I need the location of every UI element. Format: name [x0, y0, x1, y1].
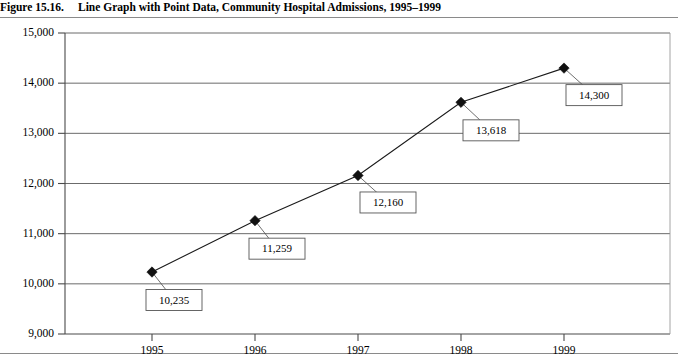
xtick-label-1995: 1995 — [141, 344, 164, 355]
callout-label-1998: 13,618 — [476, 124, 507, 136]
figure-caption: Figure 15.16.Line Graph with Point Data,… — [0, 0, 679, 16]
ytick-label-10000: 10,000 — [22, 277, 54, 290]
xtick-label-1998: 1998 — [450, 344, 473, 355]
xtick-label-1999: 1999 — [553, 344, 576, 355]
xtick-label-1996: 1996 — [244, 344, 267, 355]
callout-label-1995: 10,235 — [159, 294, 190, 306]
line-chart: 9,00010,00011,00012,00013,00014,00015,00… — [0, 17, 679, 355]
ytick-label-15000: 15,000 — [22, 26, 54, 39]
chart-canvas: 9,00010,00011,00012,00013,00014,00015,00… — [0, 17, 679, 355]
figure-title: Line Graph with Point Data, Community Ho… — [78, 0, 441, 15]
ytick-label-14000: 14,000 — [22, 76, 54, 89]
ytick-label-9000: 9,000 — [28, 327, 54, 340]
data-point-1995[interactable] — [147, 267, 157, 277]
xtick-label-1997: 1997 — [347, 344, 370, 355]
ytick-label-12000: 12,000 — [22, 177, 54, 190]
ytick-label-11000: 11,000 — [23, 227, 54, 240]
callout-label-1996: 11,259 — [262, 242, 292, 254]
figure-number: Figure 15.16. — [0, 0, 78, 15]
callout-label-1997: 12,160 — [373, 196, 404, 208]
ytick-label-13000: 13,000 — [22, 126, 54, 139]
data-point-1996[interactable] — [250, 215, 260, 225]
callout-label-1999: 14,300 — [579, 89, 610, 101]
